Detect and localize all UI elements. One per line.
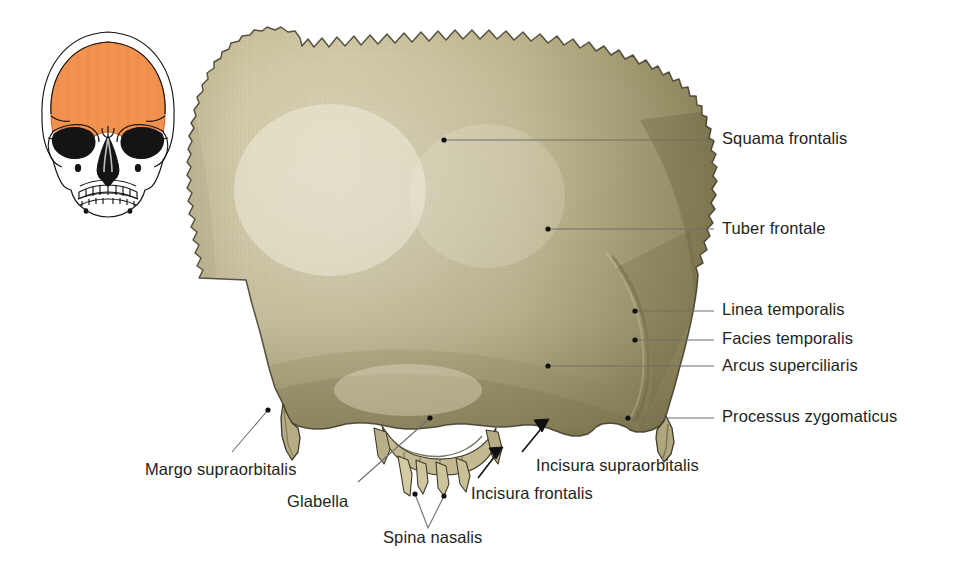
label-processus-zygomaticus: Processus zygomaticus xyxy=(722,407,897,425)
label-incisura-supraorbitalis: Incisura supraorbitalis xyxy=(536,456,699,474)
label-glabella: Glabella xyxy=(287,492,348,510)
dot-margo-supraorbitalis xyxy=(265,407,270,412)
dot-processus-zygomaticus xyxy=(625,415,630,420)
label-arcus-superciliaris: Arcus superciliaris xyxy=(722,356,858,374)
label-margo-supraorbitalis: Margo supraorbitalis xyxy=(145,460,296,478)
dot-spina-nasalis-right xyxy=(441,493,446,498)
dot-spina-nasalis-left xyxy=(412,491,417,496)
label-linea-temporalis: Linea temporalis xyxy=(722,300,845,318)
leader-margo-supraorbitalis xyxy=(232,410,268,452)
dot-squama-frontalis xyxy=(441,137,446,142)
dot-glabella xyxy=(427,415,432,420)
label-incisura-frontalis: Incisura frontalis xyxy=(471,484,593,502)
label-facies-temporalis: Facies temporalis xyxy=(722,329,853,347)
anatomy-figure: Squama frontalis Tuber frontale Linea te… xyxy=(0,0,958,580)
dot-arcus-superciliaris xyxy=(545,363,550,368)
dot-linea-temporalis xyxy=(632,308,637,313)
label-spina-nasalis: Spina nasalis xyxy=(383,528,482,546)
leader-spina-nasalis xyxy=(415,494,444,528)
dot-tuber-frontale xyxy=(545,226,550,231)
label-squama-frontalis: Squama frontalis xyxy=(722,129,847,147)
frontal-bone-body xyxy=(180,20,720,450)
label-tuber-frontale: Tuber frontale xyxy=(722,219,826,237)
dot-facies-temporalis xyxy=(632,337,637,342)
